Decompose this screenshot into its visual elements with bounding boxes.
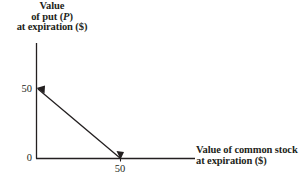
- x-axis-label-line-2: at expiration ($): [196, 155, 308, 166]
- x-axis-label: Value of common stock at expiration ($): [196, 144, 308, 166]
- put-payoff-figure: Value of put (P) at expiration ($) 50 0 …: [0, 0, 308, 180]
- payoff-line: [38, 89, 120, 158]
- y-axis-tick-label-0: 0: [12, 152, 32, 163]
- x-axis-tick-label-50: 50: [110, 163, 130, 174]
- x-axis-label-line-1: Value of common stock: [196, 144, 308, 155]
- y-axis-tick-label-50: 50: [12, 83, 32, 94]
